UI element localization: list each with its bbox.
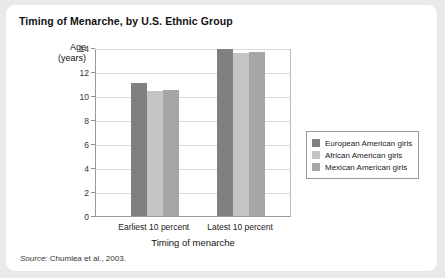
- legend-swatch: [312, 163, 320, 171]
- figure-card: Timing of Menarche, by U.S. Ethnic Group…: [6, 5, 437, 271]
- y-axis-title-line2: (years): [34, 53, 86, 64]
- x-axis-title: Timing of menarche: [95, 237, 291, 248]
- y-tick-label: 4: [65, 165, 89, 174]
- legend-item: African American girls: [312, 149, 412, 161]
- bar: [217, 49, 233, 216]
- y-tick-label: 0: [65, 213, 89, 222]
- chart-legend: European American girlsAfrican American …: [306, 131, 419, 179]
- gridline: [96, 49, 290, 50]
- legend-label: European American girls: [325, 139, 412, 148]
- y-tick-label: 10: [65, 93, 89, 102]
- bar: [233, 53, 249, 216]
- bar: [147, 91, 163, 216]
- source-citation: Chumlea et al., 2003.: [48, 254, 126, 263]
- source-note: Source: Chumlea et al., 2003.: [20, 254, 126, 263]
- bar: [249, 52, 265, 216]
- source-label: Source:: [20, 254, 48, 263]
- y-tick-label: 6: [65, 141, 89, 150]
- page-title: Timing of Menarche, by U.S. Ethnic Group: [19, 15, 233, 27]
- legend-swatch: [312, 151, 320, 159]
- y-tick-label: 14: [65, 45, 89, 54]
- y-tick-label: 8: [65, 117, 89, 126]
- y-tick-label: 2: [65, 189, 89, 198]
- legend-label: African American girls: [325, 151, 402, 160]
- legend-item: Mexican American girls: [312, 161, 412, 173]
- bar: [163, 90, 179, 216]
- legend-label: Mexican American girls: [325, 163, 407, 172]
- plot-area: [95, 49, 291, 217]
- y-tick-label: 12: [65, 69, 89, 78]
- x-tick-label: Latest 10 percent: [185, 222, 295, 232]
- legend-swatch: [312, 139, 320, 147]
- legend-item: European American girls: [312, 137, 412, 149]
- bar: [131, 83, 147, 216]
